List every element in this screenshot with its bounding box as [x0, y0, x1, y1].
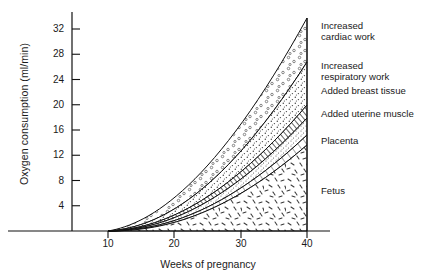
y-tick-labels: 32 28 24 20 16 12 8 4 [34, 0, 64, 279]
oxygen-consumption-chart: 32 28 24 20 16 12 8 4 10 20 30 40 Oxygen… [0, 0, 431, 279]
y-tick-32: 32 [38, 24, 64, 34]
x-axis-label: Weeks of pregnancy [108, 258, 308, 270]
y-axis-label: Oxygen consumption (ml/min) [18, 14, 30, 214]
y-tick-4: 4 [38, 201, 64, 211]
y-tick-16: 16 [38, 125, 64, 135]
annotation-increased-cardiac-work: Increased cardiac work [321, 20, 375, 43]
annotation-placenta: Placenta [321, 135, 358, 146]
y-tick-12: 12 [38, 150, 64, 160]
stacked-bands [108, 18, 307, 231]
y-axis-ticks [72, 29, 80, 206]
y-tick-20: 20 [38, 100, 64, 110]
x-tick-20: 20 [154, 238, 194, 249]
annotation-added-breast-tissue: Added breast tissue [321, 85, 406, 96]
x-tick-30: 30 [221, 238, 261, 249]
x-tick-40: 40 [287, 238, 327, 249]
y-tick-8: 8 [38, 176, 64, 186]
annotation-added-uterine-muscle: Added uterine muscle [321, 108, 414, 119]
y-tick-24: 24 [38, 75, 64, 85]
y-tick-28: 28 [38, 49, 64, 59]
annotation-fetus: Fetus [321, 185, 345, 196]
annotation-increased-respiratory-work: Increased respiratory work [321, 60, 389, 83]
x-tick-10: 10 [88, 238, 128, 249]
x-axis-ticks [108, 231, 307, 238]
